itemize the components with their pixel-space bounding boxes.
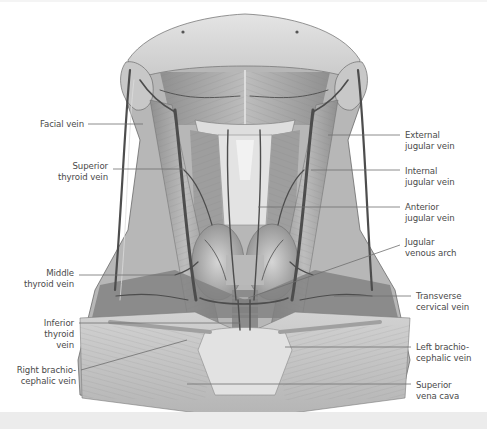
label-left-brachiocephalic-vein: Left brachio- cephalic vein [416,342,471,364]
label-right-brachiocephalic-vein: Right brachio- cephalic vein [4,365,76,387]
label-jugular-venous-arch: Jugular venous arch [405,237,456,259]
label-facial-vein: Facial vein [24,119,84,130]
label-superior-vena-cava: Superior vena cava [416,380,459,402]
label-superior-thyroid-vein: Superior thyroid vein [24,161,108,183]
label-middle-thyroid-vein: Middle thyroid vein [10,268,74,290]
anatomy-figure: Facial vein Superior thyroid vein Middle… [0,0,487,429]
label-external-jugular-vein: External jugular vein [405,130,455,152]
label-transverse-cervical-vein: Transverse cervical vein [416,291,469,313]
label-inferior-thyroid-vein: Inferior thyroid vein [10,318,74,351]
label-anterior-jugular-vein: Anterior jugular vein [405,202,455,224]
bottom-band [0,412,487,429]
label-internal-jugular-vein: Internal jugular vein [405,166,455,188]
